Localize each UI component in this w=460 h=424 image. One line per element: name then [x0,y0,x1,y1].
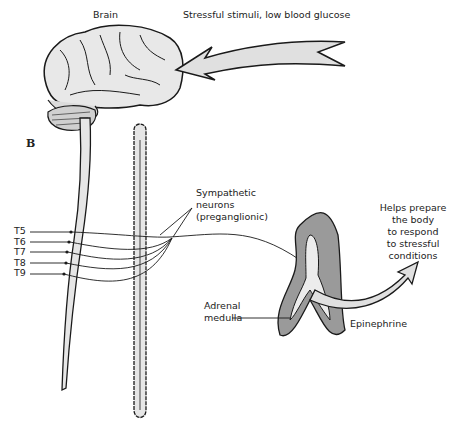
effect-line: conditions [373,250,453,262]
stimulus-arrow [176,41,345,80]
effect-line: to respond [373,226,453,238]
effect-line: the body [373,214,453,226]
sympathetic-line-3: (preganglionic) [196,211,268,223]
brain-label: Brain [93,9,118,21]
stimulus-label: Stressful stimuli, low blood glucose [183,9,350,21]
spinal-segment-labels: T5 T6 T7 T8 T9 [14,226,26,279]
effect-line: Helps prepare [373,202,453,214]
segment-label: T9 [14,268,26,279]
epinephrine-label: Epinephrine [350,318,407,330]
effect-line: to stressful [373,238,453,250]
brain-illustration [44,25,183,130]
adrenal-line-2: medulla [204,312,242,324]
adrenal-line-1: Adrenal [204,300,242,312]
segment-label: T7 [14,247,26,258]
sympathetic-line-1: Sympathetic [196,187,268,199]
sympathetic-label: Sympathetic neurons (preganglionic) [196,187,268,223]
panel-letter: B [26,138,35,150]
adrenal-gland [278,213,345,336]
sympathetic-line-2: neurons [196,199,268,211]
adrenal-label: Adrenal medulla [204,300,242,324]
segment-label: T5 [14,226,26,237]
effect-label: Helps prepare the body to respond to str… [373,202,453,262]
